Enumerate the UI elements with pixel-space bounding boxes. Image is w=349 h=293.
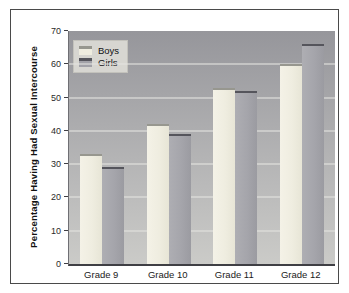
y-tick-mark (64, 230, 68, 231)
y-tick-mark (64, 196, 68, 197)
y-tick-mark (64, 263, 68, 264)
y-tick-label: 60 (35, 59, 61, 69)
bar-girls-grade-9 (102, 167, 124, 264)
y-tick-mark (64, 97, 68, 98)
y-tick-mark (64, 63, 68, 64)
y-tick-label: 10 (35, 226, 61, 236)
y-tick-label: 40 (35, 126, 61, 136)
x-category-label: Grade 11 (202, 269, 266, 281)
chart-figure: Percentage Having Had Sexual Intercourse… (0, 0, 349, 293)
legend-item-boys: Boys (79, 45, 119, 56)
y-tick-label: 30 (35, 159, 61, 169)
y-tick-label: 50 (35, 93, 61, 103)
plot-area: Boys Girls (68, 31, 335, 266)
legend-swatch-boys-icon (79, 46, 92, 55)
x-category-label: Grade 9 (69, 269, 133, 281)
bar-girls-grade-12 (302, 44, 324, 264)
bar-boys-grade-9 (80, 154, 102, 264)
chart-frame: Percentage Having Had Sexual Intercourse… (10, 9, 339, 284)
y-tick-label: 70 (35, 26, 61, 36)
legend: Boys Girls (73, 40, 128, 73)
legend-label-boys: Boys (98, 45, 119, 56)
bar-boys-grade-10 (147, 124, 169, 264)
x-category-label: Grade 12 (269, 269, 333, 281)
bar-girls-grade-10 (169, 134, 191, 264)
y-tick-label: 20 (35, 192, 61, 202)
x-category-label: Grade 10 (136, 269, 200, 281)
bar-boys-grade-11 (213, 88, 235, 264)
y-tick-label: 0 (35, 259, 61, 269)
y-tick-mark (64, 30, 68, 31)
bar-girls-grade-11 (235, 91, 257, 264)
y-tick-mark (64, 130, 68, 131)
bar-boys-grade-12 (280, 64, 302, 264)
y-tick-mark (64, 163, 68, 164)
